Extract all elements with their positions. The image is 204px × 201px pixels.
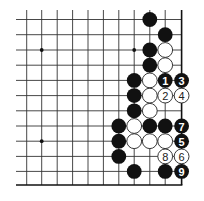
white-stone (127, 119, 142, 134)
move-number: 4 (179, 90, 185, 102)
white-stone: 6 (174, 149, 189, 164)
move-number: 2 (162, 90, 168, 102)
black-stone (127, 103, 142, 118)
move-number: 3 (179, 75, 185, 87)
black-stone (142, 12, 157, 27)
white-stone-icon (142, 73, 157, 88)
black-stone-icon (111, 149, 126, 164)
white-stone (142, 103, 157, 118)
white-stone-icon (158, 43, 173, 58)
black-stone (111, 119, 126, 134)
white-stone-icon (142, 134, 157, 149)
black-stone (158, 119, 173, 134)
white-stone (158, 58, 173, 73)
black-stone-icon (111, 134, 126, 149)
black-stone-icon (142, 58, 157, 73)
white-stone-icon (158, 134, 173, 149)
black-stone-icon (142, 12, 157, 27)
black-stone-icon (158, 164, 173, 179)
white-stone: 8 (158, 149, 173, 164)
white-stone (158, 134, 173, 149)
hoshi-icon (132, 48, 136, 52)
move-number: 6 (179, 151, 185, 163)
move-number: 1 (162, 75, 168, 87)
black-stone (127, 73, 142, 88)
white-stone: 2 (158, 88, 173, 103)
white-stone-icon (127, 119, 142, 134)
white-stone (142, 73, 157, 88)
move-number: 9 (179, 166, 185, 178)
black-stone (142, 43, 157, 58)
black-stone: 9 (174, 164, 189, 179)
board-edges (16, 10, 182, 185)
black-stone-icon (111, 119, 126, 134)
black-stone (158, 27, 173, 42)
black-stone-icon (127, 164, 142, 179)
black-stone: 7 (174, 119, 189, 134)
white-stone-icon (142, 103, 157, 118)
white-stone (142, 88, 157, 103)
black-stone: 1 (158, 73, 173, 88)
black-stone-icon (158, 27, 173, 42)
white-stone: 4 (174, 88, 189, 103)
black-stone (142, 119, 157, 134)
black-stone-icon (158, 119, 173, 134)
black-stone-icon (127, 88, 142, 103)
black-stone-icon (142, 119, 157, 134)
black-stone (158, 164, 173, 179)
black-stone (142, 58, 157, 73)
black-stone: 3 (174, 73, 189, 88)
black-stone (111, 134, 126, 149)
black-stone-icon (127, 103, 142, 118)
hoshi-icon (40, 139, 44, 143)
go-board: 132475869 (0, 0, 204, 201)
black-stone: 5 (174, 134, 189, 149)
white-stone-icon (158, 58, 173, 73)
black-stone (111, 149, 126, 164)
black-stone (127, 164, 142, 179)
white-stone-icon (142, 88, 157, 103)
black-stone-icon (142, 43, 157, 58)
black-stone-icon (127, 73, 142, 88)
move-number: 7 (179, 121, 185, 133)
white-stone-icon (127, 134, 142, 149)
hoshi-icon (40, 48, 44, 52)
white-stone (142, 134, 157, 149)
white-stone (158, 43, 173, 58)
black-stone (127, 88, 142, 103)
move-number: 8 (162, 151, 168, 163)
white-stone (127, 134, 142, 149)
move-number: 5 (179, 136, 185, 148)
